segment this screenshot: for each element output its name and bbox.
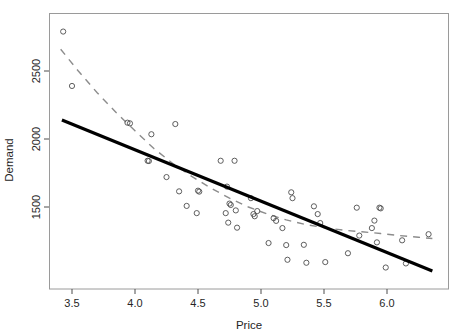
data-point (164, 174, 169, 179)
data-point (311, 204, 316, 209)
data-point (285, 257, 290, 262)
data-point (426, 232, 431, 237)
data-point (218, 158, 223, 163)
data-point (232, 158, 237, 163)
y-tick-label: 1500 (30, 195, 42, 219)
data-point (369, 225, 374, 230)
chart-canvas: 3.54.04.55.05.56.0 150020002500 Price De… (0, 0, 463, 335)
data-point (304, 260, 309, 265)
data-point (323, 259, 328, 264)
x-tick-label: 4.0 (127, 297, 142, 309)
y-tick-label: 2000 (30, 127, 42, 151)
data-point (400, 238, 405, 243)
data-point (233, 208, 238, 213)
data-point (354, 205, 359, 210)
data-point (357, 233, 362, 238)
data-point (383, 265, 388, 270)
data-point (284, 242, 289, 247)
data-point (173, 121, 178, 126)
data-point (61, 29, 66, 34)
data-point (226, 220, 231, 225)
series-points-observations (61, 29, 432, 270)
x-tick-label: 6.0 (379, 297, 394, 309)
data-point (149, 132, 154, 137)
x-tick-label: 5.5 (316, 297, 331, 309)
data-point (69, 83, 74, 88)
data-point (315, 211, 320, 216)
data-point (223, 211, 228, 216)
y-tick-label: 2500 (30, 59, 42, 83)
data-point (374, 240, 379, 245)
data-point (301, 242, 306, 247)
data-point (372, 218, 377, 223)
data-point (194, 211, 199, 216)
scatter-plot-figure: 3.54.04.55.05.56.0 150020002500 Price De… (0, 0, 463, 335)
data-point (234, 225, 239, 230)
x-tick-label: 5.0 (253, 297, 268, 309)
data-point (345, 251, 350, 256)
data-point (255, 208, 260, 213)
x-tick-label: 3.5 (64, 297, 79, 309)
x-axis-ticks: 3.54.04.55.05.56.0 (64, 289, 394, 309)
series-line-ols-fit (62, 120, 432, 271)
data-point (289, 190, 294, 195)
data-point (290, 196, 295, 201)
data-point (228, 202, 233, 207)
data-point (266, 240, 271, 245)
data-series-layer (61, 29, 433, 271)
x-axis-title: Price (236, 319, 262, 331)
data-point (280, 225, 285, 230)
y-axis-title: Demand (3, 138, 15, 181)
y-axis-ticks: 150020002500 (30, 59, 49, 219)
data-point (227, 201, 232, 206)
data-point (177, 189, 182, 194)
plot-panel-border (50, 14, 449, 290)
data-point (184, 203, 189, 208)
x-tick-label: 4.5 (190, 297, 205, 309)
